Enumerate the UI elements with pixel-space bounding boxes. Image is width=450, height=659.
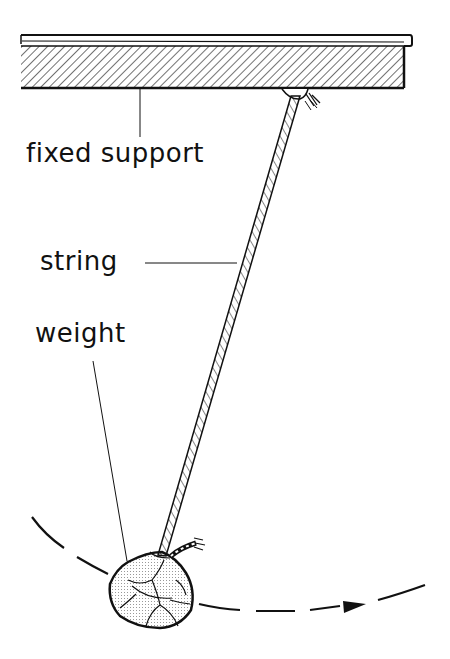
weight-leader-line [93,361,127,561]
weight-stone [110,538,205,628]
fixed-support-beam [21,35,412,88]
weight-label: weight [35,320,126,346]
fixed-support-label: fixed support [26,140,204,166]
string-label: string [40,248,118,274]
swing-path [32,517,425,611]
arrow-head-icon [343,601,366,613]
